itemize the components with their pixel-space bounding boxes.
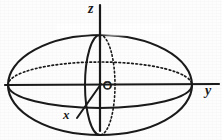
ellipsoid-drawing-canvas <box>0 0 222 140</box>
x-axis-line <box>77 84 101 118</box>
x-axis-label: x <box>63 108 70 121</box>
y-axis-label: y <box>205 84 211 98</box>
origin-label: O <box>103 79 112 91</box>
ellipsoid-figure: z y x O <box>0 0 222 140</box>
top-highlight-spot-left <box>62 26 98 36</box>
z-axis-label: z <box>88 2 93 16</box>
y-axis-line <box>5 84 219 85</box>
